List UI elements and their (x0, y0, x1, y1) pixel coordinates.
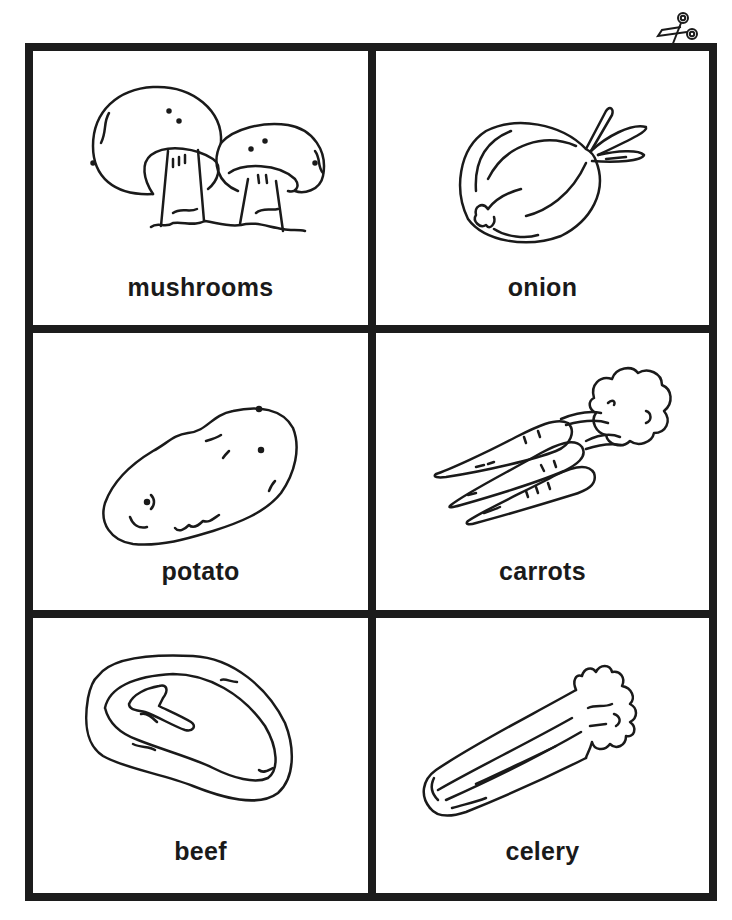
card-label: beef (33, 837, 368, 866)
grid-divider-vertical (368, 51, 376, 893)
card-label: potato (33, 557, 368, 586)
grid-divider-horizontal-2 (33, 610, 709, 618)
card-celery[interactable]: celery (376, 618, 709, 893)
grid-divider-horizontal-1 (33, 325, 709, 333)
card-label: carrots (376, 557, 709, 586)
card-label: onion (376, 273, 709, 302)
card-onion[interactable]: onion (376, 51, 709, 325)
cutout-card-grid: mushrooms onion (25, 43, 717, 901)
card-label: mushrooms (33, 273, 368, 302)
card-carrots[interactable]: carrots (376, 333, 709, 610)
card-mushrooms[interactable]: mushrooms (33, 51, 368, 325)
card-beef[interactable]: beef (33, 618, 368, 893)
card-label: celery (376, 837, 709, 866)
card-potato[interactable]: potato (33, 333, 368, 610)
